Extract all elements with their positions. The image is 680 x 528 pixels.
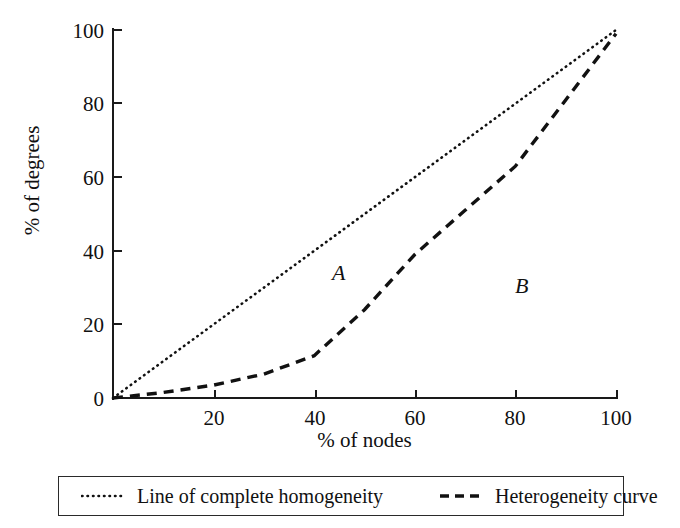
lorenz-curve-figure: 100 80 60 40 20 0 20 40 60 80 100 % of d… (0, 0, 680, 528)
legend-label-homogeneity: Line of complete homogeneity (137, 485, 383, 508)
dashed-line-swatch (439, 490, 483, 502)
y-tick-label-100: 100 (52, 21, 104, 42)
dotted-line-swatch (81, 490, 125, 502)
x-axis-line (112, 397, 618, 399)
x-tick-20 (214, 390, 216, 398)
legend: Line of complete homogeneity Heterogenei… (58, 476, 624, 516)
legend-entry-heterogeneity: Heterogeneity curve (439, 485, 658, 508)
x-tick-40 (315, 390, 317, 398)
x-tick-60 (415, 390, 417, 398)
y-tick-60 (114, 176, 122, 178)
y-axis-line (112, 28, 114, 400)
x-tick-100 (616, 390, 618, 398)
y-tick-label-20: 20 (52, 315, 104, 336)
y-tick-label-0: 0 (52, 389, 104, 410)
y-tick-label-60: 60 (52, 168, 104, 189)
y-tick-label-40: 40 (52, 242, 104, 263)
y-tick-label-80: 80 (52, 94, 104, 115)
line-of-complete-homogeneity (113, 30, 616, 398)
x-tick-label-60: 60 (385, 408, 445, 429)
legend-label-heterogeneity: Heterogeneity curve (495, 485, 658, 508)
x-tick-80 (515, 390, 517, 398)
legend-entry-homogeneity: Line of complete homogeneity (81, 485, 383, 508)
y-tick-100 (114, 29, 122, 31)
region-label-b: B (515, 273, 528, 299)
y-tick-40 (114, 250, 122, 252)
x-tick-label-20: 20 (184, 408, 244, 429)
x-tick-label-100: 100 (586, 408, 646, 429)
y-axis-title: % of degrees (20, 81, 45, 281)
x-axis-title: % of nodes (113, 428, 616, 453)
y-tick-80 (114, 102, 122, 104)
y-tick-20 (114, 323, 122, 325)
heterogeneity-curve (113, 34, 616, 398)
x-tick-label-40: 40 (285, 408, 345, 429)
region-label-a: A (332, 260, 345, 286)
x-tick-label-80: 80 (485, 408, 545, 429)
